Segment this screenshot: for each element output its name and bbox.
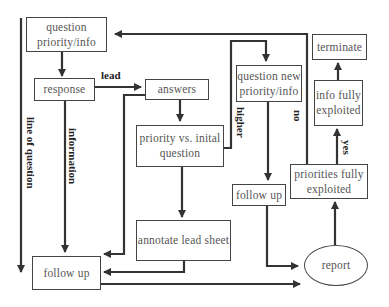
node-priorities-fully-exploited: priorities fully exploited [290,164,368,199]
edge-label-line-of-question: line of question [25,117,37,189]
node-annotate-lead-sheet: annotate lead sheet [136,220,231,261]
node-response: response [34,78,95,101]
node-question-priority: question priority/info [26,17,107,52]
edge-label-yes: yes [341,140,353,155]
edge-label-no: no [292,110,304,122]
node-follow-up-right: follow up [232,184,286,206]
edge-label-lead: lead [101,69,121,81]
node-info-fully-exploited: info fully exploited [314,80,363,126]
edge-label-higher: higher [235,107,247,138]
node-question-new-priority: question new priority/info [236,65,302,102]
node-follow-up-left: follow up [32,256,101,290]
node-report: report [304,245,368,286]
edge-label-information: information [67,128,79,184]
node-terminate: terminate [312,34,367,60]
node-answers: answers [145,79,209,100]
node-priority-vs-initial: priority vs. inital question [136,125,224,167]
